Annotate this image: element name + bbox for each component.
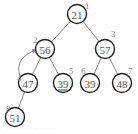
node-value: 39 [85,78,97,90]
node-index: 5 [69,66,74,76]
heap-node-4: 474 [17,73,38,93]
node-index: 2 [33,35,38,45]
node-index: 3 [111,29,116,39]
node-value: 39 [58,78,70,90]
nodes-group: 211562573474395396487518 [6,1,134,127]
heap-node-1: 211 [68,1,90,24]
caption: ·· ··· ·· · ··· · ··· ······ · [6,126,53,131]
heap-node-3: 573 [96,29,117,59]
node-value: 21 [72,9,83,21]
node-index: 1 [85,1,90,11]
node-value: 51 [10,112,21,124]
heap-node-6: 396 [81,66,100,93]
node-index: 8 [6,104,11,114]
node-value: 57 [100,44,112,56]
node-index: 6 [81,66,86,76]
heap-node-2: 562 [33,35,55,59]
heap-diagram: 211562573474395396487518 ·· ··· ·· · ···… [0,0,138,134]
node-value: 56 [40,44,52,56]
node-index: 7 [128,66,133,76]
node-value: 47 [23,78,35,90]
heap-node-8: 518 [6,104,25,127]
node-value: 48 [117,78,129,90]
node-index: 4 [17,73,22,83]
